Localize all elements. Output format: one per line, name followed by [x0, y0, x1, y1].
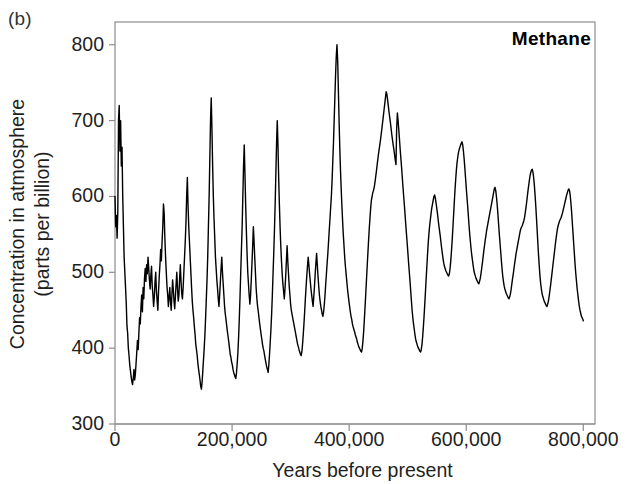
x-tick-label: 400,000 [289, 430, 409, 450]
x-tick-label: 0 [55, 430, 175, 450]
y-tick-label: 800 [52, 35, 104, 55]
x-tick-label: 800,000 [523, 430, 633, 450]
y-tick-label: 700 [52, 111, 104, 131]
data-series-methane [115, 45, 583, 389]
y-tick-label: 500 [52, 262, 104, 282]
x-tick-label: 200,000 [172, 430, 292, 450]
figure-panel-b: (b) Concentration in atmosphere (parts p… [0, 0, 633, 484]
axis-ticks [109, 45, 583, 431]
y-tick-label: 600 [52, 186, 104, 206]
y-tick-label: 400 [52, 338, 104, 358]
x-tick-label: 600,000 [406, 430, 526, 450]
